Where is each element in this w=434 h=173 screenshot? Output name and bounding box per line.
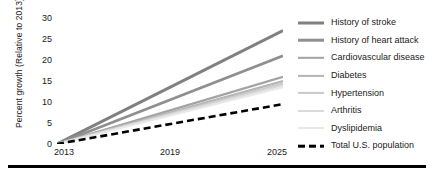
- y-tick-label: 15: [30, 77, 52, 86]
- legend-swatch-icon: [298, 88, 324, 98]
- y-tick-label: 0: [30, 140, 52, 149]
- x-tick-label: 2013: [54, 148, 74, 157]
- legend-item[interactable]: Arthritis: [298, 102, 434, 120]
- legend-label: Hypertension: [331, 89, 384, 98]
- legend-item[interactable]: Dyslipidemia: [298, 120, 434, 138]
- y-tick-label: 20: [30, 56, 52, 65]
- legend-swatch-icon: [298, 18, 324, 28]
- legend-item[interactable]: Cardiovascular disease: [298, 49, 434, 67]
- legend-swatch-icon: [298, 123, 324, 133]
- legend-item[interactable]: Hypertension: [298, 84, 434, 102]
- legend-label: Dyslipidemia: [331, 124, 382, 133]
- legend-label: History of heart attack: [331, 36, 419, 45]
- legend-item[interactable]: History of heart attack: [298, 32, 434, 50]
- legend-swatch-icon: [298, 71, 324, 81]
- series-line: [57, 56, 283, 144]
- bottom-divider: [8, 165, 426, 168]
- legend-item[interactable]: Diabetes: [298, 67, 434, 85]
- chart-figure: Percent growth (Relative to 2013) 051015…: [0, 0, 434, 173]
- legend-label: Arthritis: [331, 106, 362, 115]
- series-line: [57, 87, 283, 144]
- y-tick-label: 10: [30, 98, 52, 107]
- legend-swatch-icon: [298, 53, 324, 63]
- legend-swatch-icon: [298, 35, 324, 45]
- legend-label: Total U.S. population: [331, 141, 414, 150]
- y-tick-label: 30: [30, 14, 52, 23]
- chart-legend: History of strokeHistory of heart attack…: [298, 14, 434, 155]
- y-tick-label: 5: [30, 119, 52, 128]
- legend-label: History of stroke: [331, 18, 396, 27]
- series-lines: [57, 18, 283, 144]
- y-axis-tick-labels: 051015202530: [26, 0, 52, 173]
- legend-swatch-icon: [298, 141, 324, 151]
- y-tick-label: 25: [30, 35, 52, 44]
- legend-label: Cardiovascular disease: [331, 53, 425, 62]
- x-tick-label: 2019: [160, 148, 180, 157]
- legend-item[interactable]: History of stroke: [298, 14, 434, 32]
- y-axis-title: Percent growth (Relative to 2013): [14, 0, 24, 138]
- legend-swatch-icon: [298, 106, 324, 116]
- plot-area: [57, 18, 283, 144]
- legend-item[interactable]: Total U.S. population: [298, 137, 434, 155]
- x-tick-label: 2025: [267, 148, 287, 157]
- legend-label: Diabetes: [331, 71, 367, 80]
